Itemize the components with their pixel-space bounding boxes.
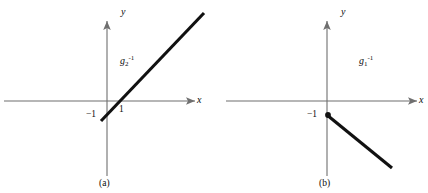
panel-a: y x −1 1 g2-1 (a) <box>0 0 214 193</box>
x-axis-b <box>226 97 417 105</box>
curve-g2-inverse <box>101 13 204 121</box>
figure-root: y x −1 1 g2-1 (a) y x <box>0 0 428 193</box>
curve-label-superscript-b: -1 <box>368 54 374 62</box>
y-intercept-label-b: −1 <box>307 110 317 120</box>
x-axis-label-a: x <box>197 95 201 105</box>
y-axis-label-a: y <box>121 7 125 17</box>
y-axis-label-b: y <box>341 7 345 17</box>
panel-caption-b: (b) <box>319 179 330 189</box>
panel-b-plot <box>214 0 428 193</box>
panel-caption-a: (a) <box>99 179 110 189</box>
curve-label-superscript-a: -1 <box>129 54 135 62</box>
curve-label-g2-inverse: g2-1 <box>120 56 134 66</box>
x-intercept-label-a: 1 <box>119 105 124 115</box>
y-axis-b <box>323 21 331 176</box>
curve-label-g1-inverse: g1-1 <box>359 56 373 66</box>
y-intercept-label-a: −1 <box>86 110 96 120</box>
y-axis-a <box>103 21 111 176</box>
endpoint-dot-b <box>325 112 331 118</box>
x-axis-a <box>4 97 195 105</box>
curve-g1-inverse <box>327 115 392 168</box>
x-axis-label-b: x <box>419 95 423 105</box>
panel-a-plot <box>0 0 214 193</box>
panel-b: y x −1 g1-1 (b) <box>214 0 428 193</box>
